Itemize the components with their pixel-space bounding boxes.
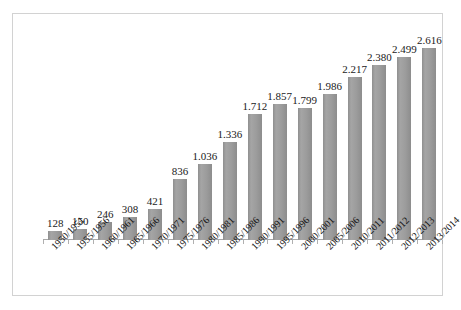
axis-tick [93,240,94,244]
bar[interactable] [422,48,436,240]
bar-slot: 836 [168,31,193,240]
bar-slot: 2.499 [392,31,417,240]
bar-slot: 1.986 [317,31,342,240]
bar-slot: 1.857 [267,31,292,240]
bar-value-label: 2.380 [367,51,392,63]
bar-slot: 2.217 [342,31,367,240]
bar-slot: 1.336 [218,31,243,240]
chart-plot-frame: 1281502463084218361.0361.3361.7121.8571.… [12,13,443,296]
axis-tick [68,240,69,244]
bar-value-label: 128 [47,217,64,229]
bar-slot: 1.799 [292,31,317,240]
bar-slot: 1.036 [193,31,218,240]
bar-value-label: 421 [147,195,164,207]
bar-value-label: 836 [172,165,189,177]
bar-value-label: 1.036 [193,150,218,162]
bar-slot: 246 [93,31,118,240]
bar[interactable] [372,65,386,240]
bar-slot: 128 [43,31,68,240]
axis-tick [43,240,44,244]
bar-value-label: 1.712 [242,100,267,112]
bar-slot: 150 [68,31,93,240]
chart-plot-area: 1281502463084218361.0361.3361.7121.8571.… [43,31,442,240]
bar-value-label: 308 [122,203,139,215]
bar-value-label: 1.799 [292,94,317,106]
bar-slot: 308 [118,31,143,240]
bar-value-label: 1.336 [217,128,242,140]
bar-value-label: 2.499 [392,43,417,55]
bar-value-label: 2.217 [342,63,367,75]
bar-value-label: 2.616 [417,34,442,46]
bar-slot: 2.380 [367,31,392,240]
bar[interactable] [397,57,411,240]
bar-slot: 421 [143,31,168,240]
bar-value-label: 1.986 [317,80,342,92]
bar-value-label: 1.857 [267,90,292,102]
bar-slot: 2.616 [417,31,442,240]
bar-slot: 1.712 [243,31,268,240]
